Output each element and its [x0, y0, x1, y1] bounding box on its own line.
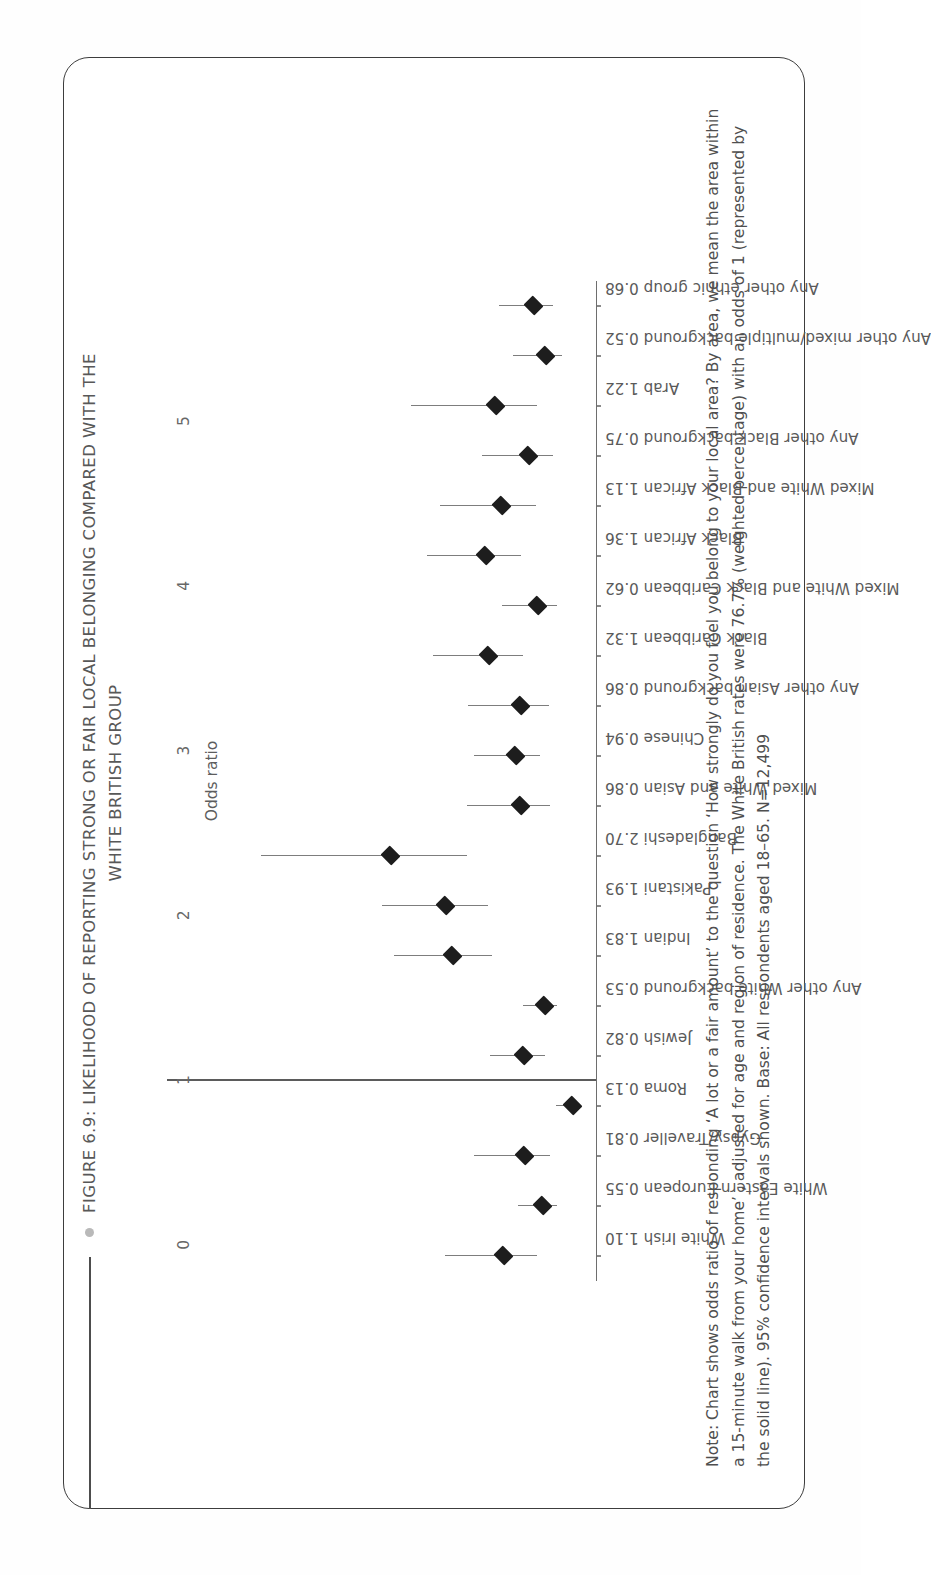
data-point-marker — [485, 395, 505, 415]
category-tick — [597, 905, 601, 907]
data-point-marker — [524, 295, 544, 315]
category-tick — [597, 1105, 601, 1107]
data-point-marker — [535, 345, 555, 365]
confidence-interval-bar — [261, 855, 466, 856]
data-point-marker — [511, 795, 531, 815]
rotated-content-wrapper: FIGURE 6.9: LIKELIHOOD OF REPORTING STRO… — [63, 57, 805, 1509]
data-point-marker — [534, 995, 554, 1015]
category-column: White Irish 1.10 — [167, 1255, 597, 1256]
category-tick — [597, 455, 601, 457]
category-column: Pakistani 1.93 — [167, 905, 597, 906]
category-tick — [597, 1055, 601, 1057]
data-point-marker — [519, 445, 539, 465]
data-point-marker — [511, 695, 531, 715]
x-tick-label: 5 — [175, 416, 193, 426]
category-label: Roma 0.13 — [605, 1079, 687, 1097]
x-axis-title: Odds ratio — [203, 281, 221, 1281]
category-column: Indian 1.83 — [167, 955, 597, 956]
data-point-marker — [381, 845, 401, 865]
category-tick — [597, 1255, 601, 1257]
confidence-interval-bar — [445, 1255, 537, 1256]
figure-plane: FIGURE 6.9: LIKELIHOOD OF REPORTING STRO… — [63, 57, 805, 1509]
confidence-interval-bar — [474, 1155, 551, 1156]
category-column: Mixed White and Black African 1.13 — [167, 505, 597, 506]
category-column: Any other mixed/multiple background 0.52 — [167, 355, 597, 356]
category-column: Any other Asian background 0.86 — [167, 705, 597, 706]
category-tick — [597, 955, 601, 957]
x-tick-label: 4 — [175, 581, 193, 591]
figure-title-line-1: FIGURE 6.9: LIKELIHOOD OF REPORTING STRO… — [77, 57, 103, 1509]
category-tick — [597, 555, 601, 557]
confidence-interval-bar — [411, 405, 537, 406]
category-column: Bangladeshi 2.70 — [167, 855, 597, 856]
reference-line-odds-1 — [167, 1079, 597, 1080]
category-column: Mixed White and Black Caribbean 0.62 — [167, 605, 597, 606]
data-point-marker — [476, 545, 496, 565]
confidence-interval-bar — [427, 555, 521, 556]
x-tick-label: 2 — [175, 910, 193, 920]
confidence-interval-bar — [467, 805, 550, 806]
category-tick — [597, 1005, 601, 1007]
category-tick — [597, 1205, 601, 1207]
data-point-marker — [494, 1245, 514, 1265]
category-column: Black Caribbean 1.32 — [167, 655, 597, 656]
category-column: Mixed White and Asian 0.86 — [167, 805, 597, 806]
category-column: White Eastern European 0.55 — [167, 1205, 597, 1206]
figure-note: Note: Chart shows odds ratio of respondi… — [701, 101, 778, 1467]
category-column: Roma 0.13 — [167, 1105, 597, 1106]
confidence-interval-bar — [482, 455, 553, 456]
confidence-interval-bar — [382, 905, 488, 906]
category-column: Any other White background 0.53 — [167, 1005, 597, 1006]
x-axis-line — [596, 281, 597, 1281]
category-column: Arab 1.22 — [167, 405, 597, 406]
category-column: Chinese 0.94 — [167, 755, 597, 756]
data-point-marker — [435, 895, 455, 915]
data-point-marker — [563, 1095, 583, 1115]
category-tick — [597, 655, 601, 657]
category-column: Any other ethnic group 0.68 — [167, 305, 597, 306]
category-label: Jewish 0.82 — [605, 1029, 692, 1047]
x-tick-label: 3 — [175, 746, 193, 756]
category-label: Pakistani 1.93 — [605, 879, 711, 897]
data-point-marker — [515, 1145, 535, 1165]
category-tick — [597, 705, 601, 707]
confidence-interval-bar — [468, 705, 549, 706]
category-tick — [597, 405, 601, 407]
category-label: Arab 1.22 — [605, 379, 679, 397]
category-tick — [597, 355, 601, 357]
category-tick — [597, 855, 601, 857]
category-tick — [597, 605, 601, 607]
figure-title: FIGURE 6.9: LIKELIHOOD OF REPORTING STRO… — [77, 57, 129, 1509]
category-tick — [597, 1155, 601, 1157]
confidence-interval-bar — [440, 505, 536, 506]
plot-area: 012345 White Irish 1.10White Eastern Eur… — [167, 281, 597, 1281]
category-column: Any other Black background 0.75 — [167, 455, 597, 456]
data-point-marker — [514, 1045, 534, 1065]
x-tick-label: 0 — [175, 1240, 193, 1250]
data-point-marker — [442, 945, 462, 965]
category-column: Jewish 0.82 — [167, 1055, 597, 1056]
category-column: Gypsy/Traveller 0.81 — [167, 1155, 597, 1156]
category-label: Indian 1.83 — [605, 929, 691, 947]
data-point-marker — [528, 595, 548, 615]
data-point-marker — [478, 645, 498, 665]
data-point-marker — [505, 745, 525, 765]
data-point-marker — [533, 1195, 553, 1215]
figure-title-line-2: WHITE BRITISH GROUP — [103, 57, 129, 1509]
data-point-marker — [492, 495, 512, 515]
category-tick — [597, 505, 601, 507]
x-tick-label: 1 — [175, 1075, 193, 1085]
confidence-interval-bar — [433, 655, 523, 656]
category-label: Chinese 0.94 — [605, 729, 704, 747]
category-tick — [597, 805, 601, 807]
category-column: Black African 1.36 — [167, 555, 597, 556]
category-tick — [597, 305, 601, 307]
category-tick — [597, 755, 601, 757]
